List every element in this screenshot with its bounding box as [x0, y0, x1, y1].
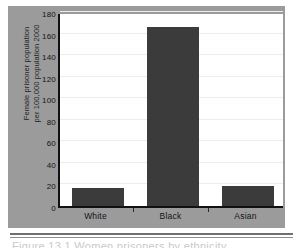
- gridline: [60, 11, 283, 12]
- bar-black: [147, 27, 199, 206]
- y-axis-tick-label: 100: [42, 96, 56, 105]
- y-axis-tick-label: 20: [47, 182, 56, 191]
- x-axis-category-labels: WhiteBlackAsian: [58, 211, 283, 227]
- x-axis-label-black: Black: [160, 211, 182, 221]
- caption-rule-bottom: [10, 237, 293, 238]
- bar-asian: [222, 186, 274, 206]
- bars-layer: [60, 14, 283, 206]
- caption-rule-top: [10, 233, 293, 235]
- bar-white: [72, 188, 124, 206]
- figure-caption: Figure 13.1 Women prisoners by ethnicity: [12, 240, 292, 248]
- y-axis-tick-label: 120: [42, 74, 56, 83]
- x-axis-label-white: White: [84, 211, 107, 221]
- y-axis-tick-label: 60: [47, 139, 56, 148]
- y-axis-title-line-1: Female prisoner population: [22, 0, 32, 159]
- y-axis-tick-label: 140: [42, 53, 56, 62]
- plot-area: [58, 14, 283, 208]
- y-axis-tick-label: 180: [42, 10, 56, 19]
- y-axis-tick-label: 80: [47, 117, 56, 126]
- x-axis-label-asian: Asian: [234, 211, 256, 221]
- y-axis-tick-label: 160: [42, 31, 56, 40]
- y-axis-tick-label: 40: [47, 160, 56, 169]
- y-axis-tick-labels: 020406080100120140160180: [32, 14, 56, 208]
- y-axis-tick-label: 0: [51, 204, 56, 213]
- figure-panel: Female prisoner population per 100,000 p…: [8, 6, 285, 228]
